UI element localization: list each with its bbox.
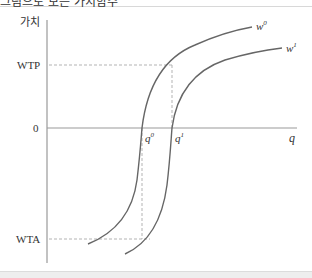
w0-label: w0 <box>256 19 267 32</box>
x-axis-label: q <box>289 131 295 145</box>
wta-label: WTA <box>16 233 40 245</box>
w1-label: w1 <box>286 41 297 54</box>
q1-label: q1 <box>175 131 184 144</box>
y-axis-label: 가치 <box>20 16 40 29</box>
origin-label: 0 <box>33 122 39 134</box>
curve-w1 <box>125 48 282 254</box>
bottom-border <box>0 271 312 278</box>
q0-label: q0 <box>145 131 155 144</box>
wtp-label: WTP <box>17 59 40 71</box>
